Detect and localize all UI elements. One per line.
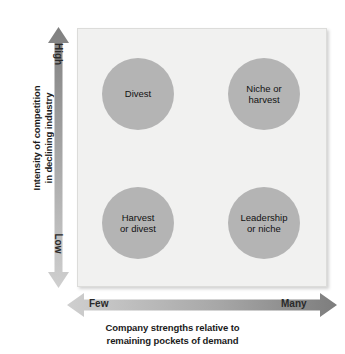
bubble-harvest-or-divest-line1: Harvest — [120, 212, 156, 224]
bubble-divest-line1: Divest — [125, 88, 151, 100]
bubble-divest[interactable]: Divest — [102, 58, 174, 130]
bubble-harvest-or-divest[interactable]: Harvest or divest — [102, 187, 174, 259]
bubble-niche-or-harvest[interactable]: Niche or harvest — [228, 58, 300, 130]
x-axis-many-label: Many — [281, 298, 307, 309]
bubble-leadership-or-niche-line1: Leadership — [240, 212, 287, 224]
x-axis-title: Company strengths relative to remaining … — [0, 322, 345, 347]
bubble-niche-or-harvest-line2: harvest — [246, 94, 281, 106]
x-axis-title-line2: remaining pockets of demand — [0, 335, 345, 348]
matrix-plot-area: Divest Niche or harvest Harvest or dives… — [77, 28, 327, 287]
bubble-harvest-or-divest-line2: or divest — [120, 223, 156, 235]
bubble-leadership-or-niche-line2: or niche — [240, 223, 287, 235]
x-axis-title-line1: Company strengths relative to — [106, 322, 240, 333]
x-axis-few-label: Few — [89, 298, 108, 309]
bubble-niche-or-harvest-line1: Niche or — [246, 83, 281, 95]
bubble-leadership-or-niche[interactable]: Leadership or niche — [228, 187, 300, 259]
y-axis-high-label: High — [53, 43, 64, 64]
y-axis-title-line1: Intensity of competition — [31, 86, 42, 191]
y-axis-low-label: Low — [53, 233, 64, 254]
strategy-matrix-figure: Intensity of competition in declining in… — [0, 0, 345, 354]
